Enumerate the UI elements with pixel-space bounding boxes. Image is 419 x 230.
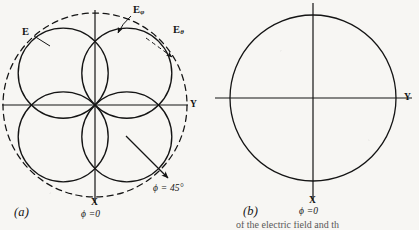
panel-a-group <box>2 10 188 203</box>
panel-a-e-leader <box>34 36 50 46</box>
panel-b-x-axis-label: X <box>309 196 316 206</box>
panel-a-ephi-label: Eφ <box>133 5 145 16</box>
panel-b-group <box>215 3 412 200</box>
panel-a-phi45-ray <box>126 136 168 178</box>
figure-root: E Eφ Eθ Y X ϕ =0 ϕ = 45° (a) Y X ϕ =0 (b… <box>0 0 419 230</box>
caption-partial-text: of the electric field and th <box>236 221 419 230</box>
panel-a-etheta-label: Eθ <box>173 25 184 36</box>
panel-a-ephi-leader <box>118 16 131 33</box>
panel-a-y-axis-label: Y <box>190 100 197 110</box>
caption-clip-region: of the electric field and th <box>0 221 419 230</box>
figure-canvas <box>0 0 419 230</box>
panel-a-etheta-subscript: θ <box>180 28 184 36</box>
panel-b-phi-zero-label: ϕ =0 <box>299 207 318 217</box>
panel-a-phi-45-label: ϕ = 45° <box>153 184 184 194</box>
panel-a-tag: (a) <box>14 206 29 219</box>
panel-a-phi-zero-label: ϕ =0 <box>81 210 100 220</box>
panel-a-x-axis-label: X <box>91 198 98 208</box>
panel-a-ephi-subscript: φ <box>140 8 144 16</box>
panel-a-e-label: E <box>22 27 29 38</box>
panel-b-y-axis-label: Y <box>404 93 411 103</box>
panel-b-tag: (b) <box>243 205 258 218</box>
